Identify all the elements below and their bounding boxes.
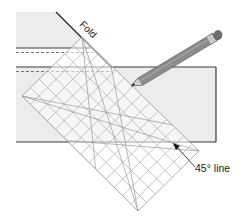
angle-line-label: 45° line	[195, 162, 230, 174]
ruler-fold-diagram: Fold	[0, 0, 241, 224]
